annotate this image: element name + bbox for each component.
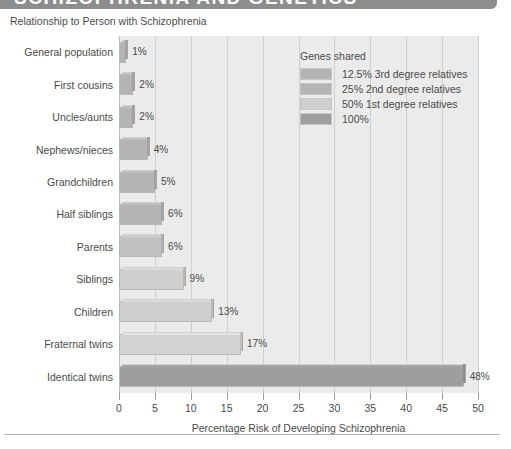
- category-label: Grandchildren: [0, 176, 113, 188]
- chart-subtitle: Relationship to Person with Schizophreni…: [10, 15, 207, 27]
- legend-swatch: [300, 68, 332, 80]
- x-tick-label: 40: [400, 402, 412, 414]
- legend-items: 12.5% 3rd degree relatives25% 2nd degree…: [290, 68, 470, 125]
- category-label: Nephews/nieces: [0, 144, 113, 156]
- bar[interactable]: [119, 269, 184, 290]
- legend-label: 12.5% 3rd degree relatives: [342, 68, 468, 80]
- bar-value-label: 6%: [168, 209, 182, 219]
- x-tick-label: 50: [472, 402, 484, 414]
- category-label: Identical twins: [0, 371, 113, 383]
- x-tick-label: 20: [257, 402, 269, 414]
- bar-value-label: 6%: [168, 242, 182, 252]
- bar-row: Children13%: [0, 296, 511, 328]
- bar-row: Siblings9%: [0, 263, 511, 295]
- legend-label: 25% 2nd degree relatives: [342, 83, 461, 95]
- x-tick-label: 30: [329, 402, 341, 414]
- x-axis-title: Percentage Risk of Developing Schizophre…: [119, 422, 478, 434]
- bar-value-label: 5%: [161, 177, 175, 187]
- x-tick-label: 5: [152, 402, 158, 414]
- bar[interactable]: [119, 366, 464, 387]
- bar[interactable]: [119, 301, 212, 322]
- bar-row: Grandchildren5%: [0, 166, 511, 198]
- x-tick-label: 15: [221, 402, 233, 414]
- legend-item[interactable]: 50% 1st degree relatives: [290, 98, 470, 110]
- category-label: First cousins: [0, 79, 113, 91]
- bar-row: Nephews/nieces4%: [0, 133, 511, 165]
- x-axis-tick-labels: 05101520253035404550: [0, 402, 511, 416]
- x-tick: [299, 393, 300, 400]
- bar[interactable]: [119, 172, 155, 193]
- x-tick: [191, 393, 192, 400]
- bar-value-label: 2%: [139, 80, 153, 90]
- x-tick: [370, 393, 371, 400]
- x-tick: [119, 393, 120, 400]
- bar-value-label: 48%: [470, 372, 490, 382]
- bar-value-label: 1%: [132, 47, 146, 57]
- x-tick-label: 25: [293, 402, 305, 414]
- x-tick-label: 45: [436, 402, 448, 414]
- bar-value-label: 9%: [190, 274, 204, 284]
- x-tick-label: 35: [364, 402, 376, 414]
- bar-row: Identical twins48%: [0, 361, 511, 393]
- bar-value-label: 13%: [218, 307, 238, 317]
- bar[interactable]: [119, 107, 133, 128]
- bar[interactable]: [119, 42, 126, 63]
- bar-value-label: 4%: [154, 145, 168, 155]
- legend-label: 50% 1st degree relatives: [342, 98, 458, 110]
- category-label: Half siblings: [0, 208, 113, 220]
- x-tick: [334, 393, 335, 400]
- legend-item[interactable]: 100%: [290, 113, 470, 125]
- bar-row: Parents6%: [0, 231, 511, 263]
- bar[interactable]: [119, 204, 162, 225]
- x-tick-label: 0: [116, 402, 122, 414]
- category-label: Parents: [0, 241, 113, 253]
- category-label: Uncles/aunts: [0, 111, 113, 123]
- category-label: General population: [0, 46, 113, 58]
- legend-swatch: [300, 113, 332, 125]
- category-label: Children: [0, 306, 113, 318]
- x-tick: [478, 393, 479, 400]
- chart-title: SCHIZOPHRENIA AND GENETICS: [14, 0, 358, 9]
- chart-title-banner: SCHIZOPHRENIA AND GENETICS: [0, 0, 497, 9]
- x-axis-ticks: [119, 393, 478, 401]
- legend-label: 100%: [342, 113, 369, 125]
- bar[interactable]: [119, 74, 133, 95]
- bar-row: Half siblings6%: [0, 198, 511, 230]
- bar[interactable]: [119, 139, 148, 160]
- x-tick: [155, 393, 156, 400]
- category-label: Fraternal twins: [0, 338, 113, 350]
- bar[interactable]: [119, 236, 162, 257]
- chart-plot-area: General population1%First cousins2%Uncle…: [0, 31, 511, 415]
- legend-swatch: [300, 98, 332, 110]
- bar-value-label: 17%: [247, 339, 267, 349]
- x-tick: [227, 393, 228, 400]
- legend-swatch: [300, 83, 332, 95]
- legend-title: Genes shared: [300, 50, 470, 62]
- x-tick: [442, 393, 443, 400]
- legend-item[interactable]: 25% 2nd degree relatives: [290, 83, 470, 95]
- legend: Genes shared 12.5% 3rd degree relatives2…: [290, 50, 470, 128]
- legend-item[interactable]: 12.5% 3rd degree relatives: [290, 68, 470, 80]
- bar-row: Fraternal twins17%: [0, 328, 511, 360]
- x-tick-label: 10: [185, 402, 197, 414]
- x-tick: [406, 393, 407, 400]
- bar[interactable]: [119, 334, 241, 355]
- category-label: Siblings: [0, 273, 113, 285]
- bottom-divider: [4, 434, 500, 435]
- bar-value-label: 2%: [139, 112, 153, 122]
- x-tick: [263, 393, 264, 400]
